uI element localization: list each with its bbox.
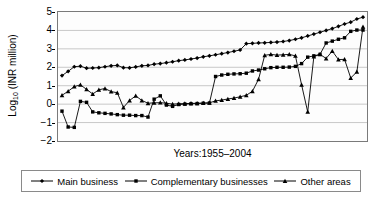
data-point-square xyxy=(66,125,69,128)
data-point-square xyxy=(128,114,131,117)
data-point-diamond xyxy=(170,60,174,64)
y-axis-title-base: Log xyxy=(7,99,18,116)
data-point-square xyxy=(281,66,284,69)
data-point-diamond xyxy=(312,32,316,36)
data-point-diamond xyxy=(226,50,230,54)
data-point-triangle xyxy=(355,70,360,74)
legend-item-label: Main business xyxy=(57,176,118,187)
data-point-triangle xyxy=(305,110,310,114)
data-point-square xyxy=(159,94,162,97)
data-point-diamond xyxy=(232,49,236,53)
data-point-square xyxy=(103,112,106,115)
data-point-square xyxy=(116,113,119,116)
data-point-diamond xyxy=(269,40,273,44)
legend-marker-square xyxy=(125,176,147,186)
legend-marker-diamond xyxy=(31,176,53,186)
data-point-square xyxy=(306,55,309,58)
data-point-square xyxy=(220,73,223,76)
y-axis-tick-label: −2 xyxy=(41,136,52,146)
data-point-diamond xyxy=(195,56,199,60)
data-point-square xyxy=(79,100,82,103)
data-point-square xyxy=(331,39,334,42)
legend-item-1[interactable]: Main business xyxy=(31,176,118,187)
data-point-square xyxy=(73,126,76,129)
data-point-square xyxy=(85,101,88,104)
data-point-triangle xyxy=(361,24,366,28)
chart-figure: Log10 (INR million) 543210−1−2 Years:195… xyxy=(0,0,380,202)
data-point-diamond xyxy=(324,28,328,32)
grid-lines xyxy=(58,30,367,122)
data-point-triangle xyxy=(256,77,261,81)
data-point-diamond xyxy=(164,61,168,65)
y-axis-tick-label: −1 xyxy=(41,118,52,128)
data-point-triangle xyxy=(60,93,65,97)
data-point-diamond xyxy=(91,66,95,70)
legend-marker-triangle xyxy=(274,176,296,186)
data-point-square xyxy=(134,179,137,182)
data-point-diamond xyxy=(250,41,254,45)
data-point-diamond xyxy=(127,66,131,70)
data-point-square xyxy=(245,71,248,74)
data-point-diamond xyxy=(281,39,285,43)
data-point-triangle xyxy=(109,89,114,93)
data-point-diamond xyxy=(103,65,107,69)
data-point-diamond xyxy=(207,54,211,58)
data-point-diamond xyxy=(189,57,193,61)
chart-legend: Main businessComplementary businessesOth… xyxy=(21,170,361,192)
data-point-diamond xyxy=(306,34,310,38)
data-point-square xyxy=(232,72,235,75)
legend-item-2[interactable]: Complementary businesses xyxy=(125,176,268,187)
data-point-square xyxy=(324,41,327,44)
x-axis-title: Years:1955–2004 xyxy=(57,148,368,159)
data-point-triangle xyxy=(330,49,335,53)
data-point-diamond xyxy=(40,179,44,183)
legend-item-3[interactable]: Other areas xyxy=(274,176,350,187)
data-point-square xyxy=(349,30,352,33)
data-point-square xyxy=(226,73,229,76)
series-3 xyxy=(60,24,366,113)
data-point-diamond xyxy=(84,66,88,70)
data-point-square xyxy=(60,109,63,112)
data-point-square xyxy=(122,114,125,117)
data-point-diamond xyxy=(293,37,297,41)
data-point-diamond xyxy=(97,66,101,70)
data-point-square xyxy=(146,115,149,118)
data-point-diamond xyxy=(275,40,279,44)
data-point-triangle xyxy=(299,82,304,86)
y-axis-tick-mark xyxy=(52,67,55,68)
data-point-square xyxy=(300,62,303,65)
data-point-square xyxy=(238,72,241,75)
y-axis-title: Log10 (INR million) xyxy=(0,0,26,150)
y-axis-tick-mark xyxy=(52,86,55,87)
y-axis-title-subscript: 10 xyxy=(12,92,19,100)
plot-svg xyxy=(58,12,367,141)
y-axis-tick-labels: 543210−1−2 xyxy=(26,0,55,150)
y-axis-tick-mark xyxy=(52,123,55,124)
data-point-diamond xyxy=(287,38,291,42)
data-point-square xyxy=(91,110,94,113)
data-point-square xyxy=(343,36,346,39)
data-point-triangle xyxy=(78,82,83,86)
legend-item-label: Complementary businesses xyxy=(151,176,268,187)
data-point-square xyxy=(294,65,297,68)
data-point-diamond xyxy=(361,15,365,19)
plot-area xyxy=(57,11,368,142)
data-point-square xyxy=(140,114,143,117)
data-point-diamond xyxy=(342,22,346,26)
data-point-square xyxy=(214,75,217,78)
y-axis-tick-mark xyxy=(52,141,55,142)
data-point-square xyxy=(269,66,272,69)
data-point-square xyxy=(109,112,112,115)
y-axis-tick-mark xyxy=(52,49,55,50)
series-line xyxy=(62,30,363,127)
series-1 xyxy=(60,15,365,78)
data-point-diamond xyxy=(201,55,205,59)
data-point-diamond xyxy=(349,20,353,24)
data-point-square xyxy=(134,114,137,117)
y-axis-tick-mark xyxy=(52,12,55,13)
data-point-diamond xyxy=(121,66,125,70)
data-point-diamond xyxy=(213,53,217,57)
data-point-square xyxy=(257,68,260,71)
data-point-square xyxy=(152,97,155,100)
data-point-diamond xyxy=(220,52,224,56)
